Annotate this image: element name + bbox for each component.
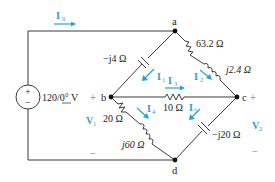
node-d-label: d: [172, 165, 178, 176]
svg-text:0: 0: [62, 15, 65, 22]
wire-a-b-top: [148, 31, 175, 58]
current-i0: I 0: [54, 10, 76, 27]
circuit-diagram: + − 120/0° V 10 Ω −j4 Ω 63.2 Ω j2.4 Ω 20…: [0, 0, 275, 182]
svg-text:2: 2: [200, 76, 203, 83]
voltage-v1: + V 1 −: [86, 92, 96, 159]
source-plus: +: [25, 86, 31, 97]
resistor-bc: [165, 94, 184, 100]
svg-text:I: I: [189, 102, 193, 113]
current-i2: I 2: [194, 70, 212, 83]
capacitor-ab-label: −j4 Ω: [103, 53, 126, 64]
svg-text:2: 2: [259, 125, 262, 132]
current-i4: I 4: [137, 103, 156, 119]
wire-c-d-top: [208, 97, 237, 126]
wire-b-d-3: [152, 144, 175, 160]
source-minus: −: [25, 97, 31, 108]
svg-text:3: 3: [174, 80, 177, 87]
node-b-dot: [109, 95, 114, 100]
wire-c-d-bottom: [175, 131, 202, 160]
v1-minus: −: [90, 148, 96, 159]
svg-text:I: I: [168, 75, 172, 86]
source-label: 120/0° V: [42, 92, 79, 103]
v2-plus: +: [250, 92, 256, 103]
voltage-source: + −: [16, 85, 40, 109]
resistor-bd: [118, 103, 126, 112]
resistor-bc-label: 10 Ω: [163, 102, 183, 113]
svg-text:I: I: [56, 10, 60, 21]
svg-text:4: 4: [152, 108, 156, 115]
inductor-bd-label: j60 Ω: [120, 139, 145, 150]
voltage-v2: + V 2 −: [250, 92, 262, 157]
svg-text:I: I: [157, 71, 161, 82]
node-d-dot: [173, 158, 178, 163]
node-a-label: a: [172, 16, 177, 27]
wire-a-c-3: [220, 80, 237, 97]
wire-a-c-2: [190, 55, 204, 64]
top-wire: [28, 31, 175, 85]
svg-text:I: I: [194, 71, 198, 82]
svg-text:1: 1: [93, 120, 96, 127]
v1-plus: +: [90, 92, 96, 103]
v2-minus: −: [252, 146, 258, 157]
node-a-dot: [173, 29, 178, 34]
svg-text:5: 5: [194, 107, 197, 114]
node-b-label: b: [101, 92, 106, 103]
wire-a-b-bottom: [111, 64, 142, 97]
resistor-bd-label: 20 Ω: [103, 113, 123, 124]
wire-b-d-2: [126, 112, 140, 124]
resistor-ac: [185, 41, 193, 55]
current-i3: I 3: [165, 75, 185, 91]
current-i1: I 1: [142, 69, 165, 83]
node-c-label: c: [242, 92, 247, 103]
node-c-dot: [235, 95, 240, 100]
bottom-wire: [28, 109, 175, 160]
capacitor-cd-label: −j20 Ω: [212, 129, 240, 140]
svg-text:I: I: [147, 103, 151, 114]
svg-text:1: 1: [162, 76, 165, 83]
current-i5: I 5: [189, 102, 200, 120]
inductor-ac-label: j2.4 Ω: [224, 64, 251, 75]
resistor-ac-label: 63.2 Ω: [196, 38, 223, 49]
inductor-ac: [204, 64, 220, 81]
